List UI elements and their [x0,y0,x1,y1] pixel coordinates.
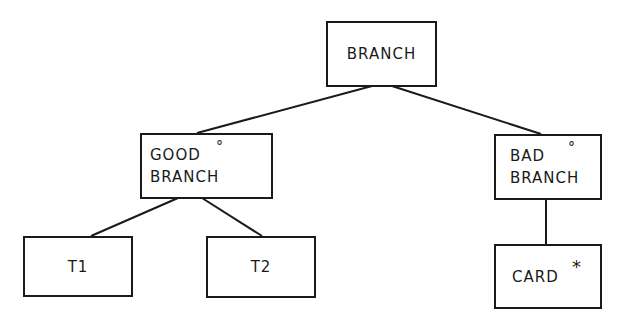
node-branch-label: BRANCH [347,43,416,65]
edge-branch-good-branch [197,86,372,133]
node-t2-label: T2 [251,256,272,278]
node-t1: T1 [23,236,133,297]
node-good-branch-label-line1: GOOD [150,146,201,164]
node-good-branch: GOOD ° BRANCH [140,133,273,199]
edge-good-branch-t2 [202,198,262,236]
node-good-branch-label-line2: BRANCH [150,166,219,188]
asterisk-mark: * [572,256,582,278]
edge-branch-bad-branch [392,86,541,134]
node-t2: T2 [206,236,316,298]
node-bad-branch-label-line1: BAD [510,147,545,165]
node-bad-branch-label-line2: BRANCH [510,167,579,189]
node-branch: BRANCH [326,21,437,87]
degree-mark: ° [216,135,224,157]
degree-mark: ° [568,136,576,158]
edge-good-branch-t1 [91,198,178,236]
node-card-label: CARD [512,268,559,286]
node-t1-label: T1 [68,256,89,278]
node-bad-branch: BAD ° BRANCH [494,134,602,200]
node-card: CARD * [494,244,602,309]
